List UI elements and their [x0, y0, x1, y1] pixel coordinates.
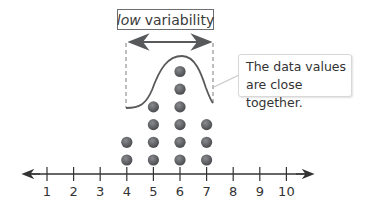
data-dot [174, 137, 185, 148]
dot-plot-figure: low variability The data values are clos… [0, 0, 365, 209]
data-dot [121, 137, 132, 148]
title-italic: low [117, 12, 141, 28]
data-dot [174, 66, 185, 77]
callout-annotation: The data values are close together. [238, 54, 352, 97]
x-tick-label: 5 [149, 184, 157, 199]
title-rest: variability [145, 12, 214, 28]
data-dot [121, 154, 132, 165]
data-dot [201, 137, 212, 148]
data-dot [174, 154, 185, 165]
data-dot [174, 119, 185, 130]
data-dots [121, 66, 212, 166]
data-dot [201, 154, 212, 165]
data-dot [174, 101, 185, 112]
data-dot [148, 119, 159, 130]
x-tick-label: 3 [96, 184, 104, 199]
callout-connector [214, 75, 239, 87]
x-tick-label: 7 [202, 184, 210, 199]
data-dot [201, 119, 212, 130]
callout-line-2: are close together. [246, 76, 351, 112]
data-dot [174, 84, 185, 95]
data-dot [148, 154, 159, 165]
x-tick-label: 10 [278, 184, 295, 199]
x-tick-label: 8 [229, 184, 237, 199]
x-tick-label: 1 [43, 184, 51, 199]
x-tick-label: 4 [123, 184, 131, 199]
distribution-curve [126, 56, 213, 108]
number-line [24, 167, 312, 181]
callout-line-1: The data values [246, 58, 351, 76]
data-dot [148, 137, 159, 148]
x-tick-label: 2 [69, 184, 77, 199]
data-dot [148, 101, 159, 112]
x-tick-label: 6 [176, 184, 184, 199]
chart-title: low variability [117, 9, 214, 30]
x-tick-label: 9 [256, 184, 264, 199]
